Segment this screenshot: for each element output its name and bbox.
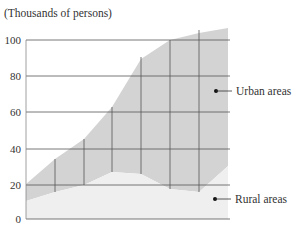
y-tick-80: 80: [10, 70, 22, 82]
y-tick-20: 20: [10, 179, 22, 191]
rural-areas-label: Rural areas: [235, 193, 288, 205]
y-tick-60: 60: [10, 106, 22, 118]
y-tick-40: 40: [10, 143, 22, 155]
y-tick-0: 0: [16, 213, 22, 225]
y-tick-100: 100: [5, 34, 22, 46]
urban-areas-label: Urban areas: [236, 85, 292, 97]
area-chart: 100 80 60 40 20 0 Urban areas Rural area…: [0, 0, 302, 230]
chart-container: (Thousands of persons) 100 80 60: [0, 0, 302, 230]
